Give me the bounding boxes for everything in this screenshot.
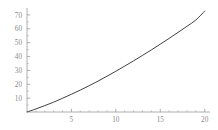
y-tick-label: 50 — [15, 39, 23, 47]
y-tick-label: 70 — [15, 12, 23, 20]
x-tick-label: 5 — [70, 116, 74, 124]
y-tick-label: 60 — [15, 25, 23, 33]
x-tick-label: 10 — [112, 116, 120, 124]
y-tick-label: 20 — [15, 81, 23, 89]
y-axis-tick-labels: 10203040506070 — [15, 12, 23, 103]
x-axis-major-ticks — [71, 109, 204, 112]
plot-canvas: 5101520 10203040506070 — [0, 0, 218, 130]
data-curve-line — [27, 11, 205, 112]
y-tick-label: 40 — [15, 53, 23, 61]
x-tick-label: 15 — [157, 116, 165, 124]
y-axis-major-ticks — [27, 15, 30, 98]
y-tick-label: 10 — [15, 95, 23, 103]
data-series-group — [27, 11, 205, 112]
x-tick-label: 20 — [201, 116, 209, 124]
plot-figure: 5101520 10203040506070 — [0, 0, 218, 130]
y-tick-label: 30 — [15, 67, 23, 75]
x-axis-tick-labels: 5101520 — [70, 116, 209, 124]
